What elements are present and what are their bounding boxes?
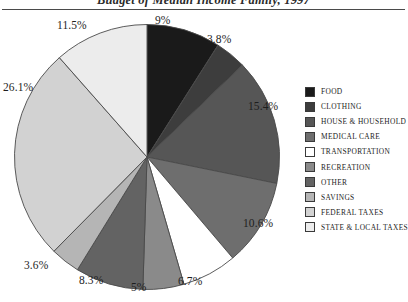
legend-item-label: FOOD (321, 87, 343, 96)
legend-color-swatch (305, 207, 315, 217)
pie-slice-group (15, 25, 280, 290)
legend-item-label: SAVINGS (321, 193, 355, 202)
legend-item[interactable]: FEDERAL TAXES (305, 205, 405, 220)
chart-legend: FOODCLOTHINGHOUSE & HOUSEHOLDMEDICAL CAR… (305, 84, 405, 235)
legend-color-swatch (305, 192, 315, 202)
legend-item-label: OTHER (321, 178, 347, 187)
legend-item-label: HOUSE & HOUSEHOLD (321, 117, 406, 126)
legend-item-label: RECREATION (321, 163, 371, 172)
legend-item-label: TRANSPORTATION (321, 147, 390, 156)
pie-percentage-label: 6.7% (178, 275, 202, 287)
legend-color-swatch (305, 132, 315, 142)
pie-percentage-label: 10.6% (243, 217, 273, 229)
legend-item[interactable]: FOOD (305, 84, 405, 99)
legend-item[interactable]: OTHER (305, 175, 405, 190)
pie-percentage-label: 8.3% (79, 274, 103, 286)
pie-percentage-label: 15.4% (248, 100, 278, 112)
legend-item[interactable]: CLOTHING (305, 99, 405, 114)
legend-item-label: STATE & LOCAL TAXES (321, 223, 408, 232)
legend-color-swatch (305, 102, 315, 112)
pie-chart-plot-area (12, 22, 282, 292)
legend-item[interactable]: HOUSE & HOUSEHOLD (305, 114, 405, 129)
chart-title: Budget of Median Income Family, 1997 (0, 0, 407, 8)
pie-percentage-label: 3.8% (207, 33, 231, 45)
title-divider-rule (2, 9, 405, 10)
legend-item[interactable]: MEDICAL CARE (305, 129, 405, 144)
legend-color-swatch (305, 87, 315, 97)
legend-item[interactable]: STATE & LOCAL TAXES (305, 220, 405, 235)
legend-color-swatch (305, 177, 315, 187)
pie-percentage-label: 3.6% (24, 259, 48, 271)
legend-color-swatch (305, 147, 315, 157)
legend-item[interactable]: RECREATION (305, 159, 405, 174)
legend-color-swatch (305, 117, 315, 127)
pie-percentage-label: 26.1% (3, 81, 33, 93)
legend-color-swatch (305, 222, 315, 232)
pie-svg (12, 22, 282, 292)
legend-item-label: FEDERAL TAXES (321, 208, 383, 217)
legend-item[interactable]: SAVINGS (305, 190, 405, 205)
pie-percentage-label: 11.5% (57, 19, 87, 31)
legend-item-label: CLOTHING (321, 102, 362, 111)
legend-color-swatch (305, 162, 315, 172)
legend-item-label: MEDICAL CARE (321, 132, 380, 141)
pie-percentage-label: 5% (131, 281, 147, 293)
pie-percentage-label: 9% (155, 14, 171, 26)
legend-item[interactable]: TRANSPORTATION (305, 144, 405, 159)
